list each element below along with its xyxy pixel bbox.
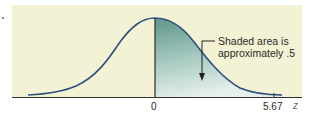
tick-label-zero: 0 [151,101,157,112]
normal-curve-figure: Shaded area is approximately .5 0 5.67 z [0,0,314,115]
axis-label-z: z [293,100,298,111]
annotation-text: Shaded area is approximately .5 [218,35,295,59]
annotation-line-2: approximately .5 [218,47,295,59]
annotation-line-1: Shaded area is [218,35,295,47]
stray-mark [2,17,4,19]
tick-label-max: 5.67 [263,101,282,112]
